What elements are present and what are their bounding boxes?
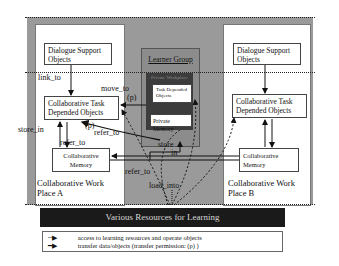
label-refer-to-p: (p) [85,121,94,130]
label-refer-to-3: refer_to [125,167,150,176]
legend: ┈▶ access to learning resources and oper… [42,231,283,252]
label-move-to: move_to [101,84,129,93]
solid-arrow-icon: ━▶ [48,242,76,249]
legend-solid-row: ━▶ transfer data/objects (transfer permi… [48,242,199,249]
label-in: in [171,148,177,157]
legend-dotted-row: ┈▶ access to learning resources and oper… [48,234,202,241]
dotted-arrow-icon: ┈▶ [48,234,76,241]
label-refer-to-2: refer_to [60,138,85,147]
legend-solid-text: transfer data/objects (transfer permissi… [78,242,199,249]
label-link-to: link_to [38,73,61,82]
label-refer-to-1: refer_to [94,128,119,137]
label-store-in-a: store_in [18,125,44,134]
label-move-to-p: (p) [127,93,136,102]
resources-bar: Various Resources for Learning [40,208,285,227]
label-load-into: load_into [149,181,179,190]
legend-dotted-text: access to learning resources and operate… [78,234,202,241]
